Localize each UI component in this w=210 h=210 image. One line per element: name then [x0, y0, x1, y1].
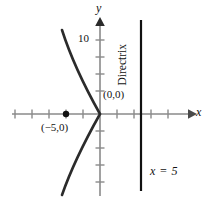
directrix-equation-label: x = 5 [150, 165, 178, 177]
directrix-label: Directrix [117, 44, 129, 86]
y-axis-tick-label-10: 10 [78, 33, 89, 44]
x-axis-group [12, 109, 197, 119]
focus-point [63, 111, 69, 117]
vertex-label: (0,0) [103, 89, 124, 100]
y-axis-label: y [96, 2, 101, 14]
graph-canvas [0, 0, 210, 210]
parabola-figure: y x 10 (0,0) (−5,0) Directrix x = 5 [0, 0, 210, 210]
x-axis-label: x [196, 106, 201, 118]
y-axis-arrowhead [95, 17, 105, 26]
focus-label: (−5,0) [41, 122, 68, 133]
